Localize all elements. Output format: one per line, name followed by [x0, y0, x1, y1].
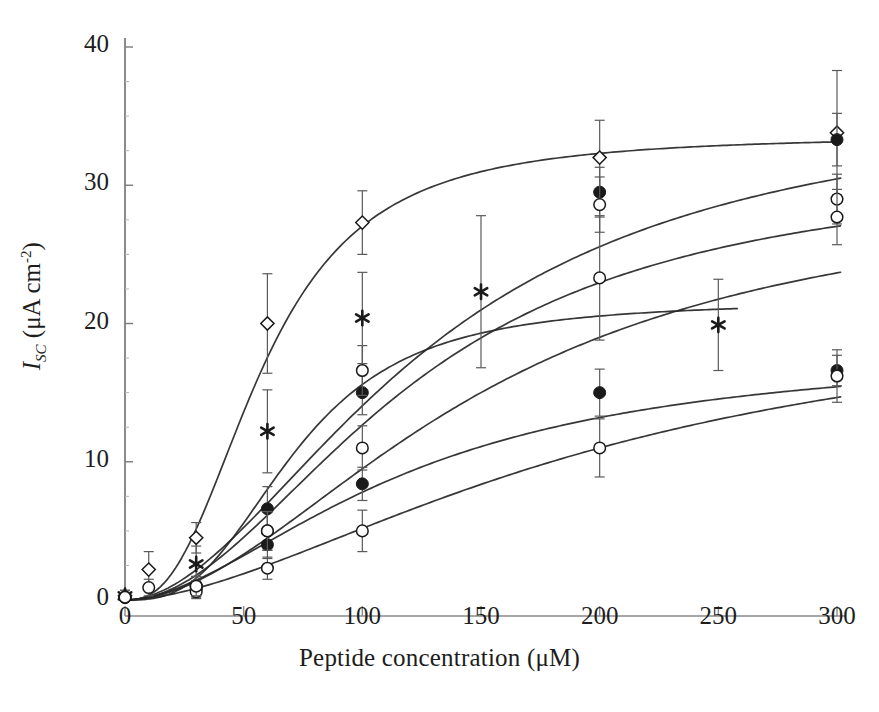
x-tick-label-100: 100 — [332, 602, 392, 630]
chart-figure: ISC (μA cm-2) Peptide concentration (μM)… — [0, 0, 879, 712]
y-axis-label: ISC (μA cm-2) — [18, 176, 50, 436]
x-tick-label-300: 300 — [807, 602, 867, 630]
curve-series-2-asterisk — [125, 309, 737, 600]
x-tick-label-0: 0 — [95, 602, 155, 630]
marker-filled-circle — [831, 134, 843, 146]
marker-open-circle — [831, 211, 843, 223]
marker-open-circle — [357, 442, 369, 454]
curve-series-7-open-circle-mid — [125, 272, 841, 600]
marker-open-circle — [357, 525, 369, 537]
marker-open-circle — [594, 199, 606, 211]
y-tick-label-40: 40 — [49, 30, 109, 58]
x-axis-label: Peptide concentration (μM) — [0, 644, 879, 672]
marker-open-diamond — [190, 531, 203, 544]
marker-filled-circle — [594, 387, 606, 399]
marker-open-diamond — [356, 216, 369, 229]
x-tick-label-50: 50 — [214, 602, 274, 630]
x-axis-label-text: Peptide concentration (μM) — [299, 644, 580, 671]
marker-open-circle — [262, 562, 274, 574]
y-tick-label-30: 30 — [49, 168, 109, 196]
curve-series-5-filled-circle-low — [125, 386, 841, 600]
marker-open-circle — [594, 442, 606, 454]
curve-series-6-open-circle-low — [125, 397, 841, 600]
y-tick-label-20: 20 — [49, 307, 109, 335]
marker-open-circle — [190, 580, 202, 592]
marker-open-circle — [143, 582, 155, 594]
curve-series-1-open-diamond — [125, 142, 841, 600]
marker-open-circle — [262, 525, 274, 537]
curve-series-4-open-circle-high — [125, 226, 841, 600]
x-tick-label-150: 150 — [451, 602, 511, 630]
marker-open-circle — [831, 370, 843, 382]
curve-series-3-filled-circle-high — [125, 178, 841, 600]
marker-open-diamond — [261, 317, 274, 330]
y-tick-label-10: 10 — [49, 445, 109, 473]
x-tick-label-250: 250 — [688, 602, 748, 630]
marker-open-circle — [357, 365, 369, 377]
marker-open-diamond — [142, 563, 155, 576]
x-tick-label-200: 200 — [570, 602, 630, 630]
marker-open-circle — [594, 272, 606, 284]
marker-filled-circle — [356, 478, 368, 490]
